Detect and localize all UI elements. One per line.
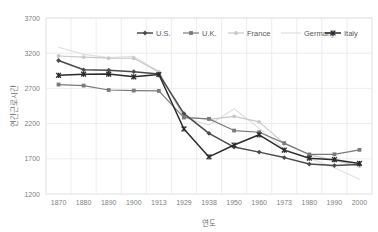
x-axis-tick-label: 1950: [226, 199, 242, 206]
marker-square: [358, 148, 362, 152]
legend-label: U.S.: [156, 29, 171, 38]
marker-square: [232, 129, 236, 133]
marker-circle: [82, 55, 86, 59]
marker-square: [57, 83, 61, 87]
marker-circle: [257, 120, 261, 124]
marker-circle: [57, 54, 61, 58]
x-axis-tick-label: 1880: [76, 199, 92, 206]
y-axis-title: 연간근로시간: [9, 85, 19, 127]
x-axis-tick-label: 1929: [176, 199, 192, 206]
legend-label: Italy: [344, 29, 358, 38]
legend-label: France: [247, 29, 270, 38]
marker-circle: [234, 31, 238, 35]
marker-square: [282, 141, 286, 145]
x-axis-tick-label: 1990: [327, 199, 343, 206]
x-axis-tick-label: 1938: [201, 199, 217, 206]
marker-square: [332, 152, 336, 156]
legend-label: U.K.: [202, 29, 217, 38]
y-axis-tick-label: 3200: [24, 50, 40, 57]
marker-square: [132, 89, 136, 93]
marker-circle: [107, 56, 111, 60]
x-axis-tick-label: 1980: [302, 199, 318, 206]
marker-circle: [232, 114, 236, 118]
x-axis-title: 연도: [202, 219, 216, 228]
chart-svg: 1200170022002700320037001870188018901900…: [0, 0, 378, 232]
y-axis-tick-label: 3700: [24, 15, 40, 22]
marker-circle: [132, 56, 136, 60]
x-axis-tick-label: 1900: [126, 199, 142, 206]
y-axis-tick-label: 1700: [24, 155, 40, 162]
x-axis-tick-label: 1870: [51, 199, 67, 206]
line-chart-figure: 1200170022002700320037001870188018901900…: [0, 0, 378, 232]
x-axis-tick-label: 1890: [101, 199, 117, 206]
plot-area: [46, 18, 372, 194]
marker-square: [107, 88, 111, 92]
x-axis-tick-label: 1913: [151, 199, 167, 206]
marker-square: [182, 116, 186, 120]
x-axis-tick-label: 1973: [276, 199, 292, 206]
y-axis-tick-label: 2200: [24, 120, 40, 127]
marker-square: [82, 84, 86, 88]
x-axis-tick-label: 2000: [352, 199, 368, 206]
y-axis-tick-label: 1200: [24, 191, 40, 198]
marker-square: [189, 31, 193, 35]
marker-square: [157, 89, 161, 93]
x-axis-tick-label: 1960: [251, 199, 267, 206]
y-axis-tick-label: 2700: [24, 85, 40, 92]
marker-square: [207, 117, 211, 121]
